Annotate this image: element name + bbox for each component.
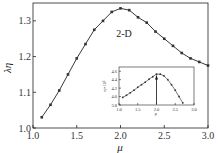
data-point [172,45,175,48]
x-tick-label: 1.0 [116,107,122,112]
data-point [133,89,135,91]
data-point [167,79,169,81]
data-point [174,89,176,91]
data-point [152,76,154,78]
data-point [154,30,157,33]
x-axis-label: μ [116,141,123,153]
inset-y-axis-label: η×10³ [102,80,107,91]
data-point [198,61,201,64]
y-tick-label: 1.3 [19,15,32,26]
x-tick-label: 2.5 [172,107,178,112]
y-tick-label: 4.2 [111,86,117,91]
y-axis-label: λη [1,63,13,74]
chart: 1.01.52.02.53.01.01.11.21.32-Dμλη1.01.52… [0,0,218,153]
y-tick-label: 4.0 [111,94,117,99]
data-point [144,81,146,83]
data-point [128,9,131,12]
data-point [49,103,52,106]
data-point [84,43,87,46]
data-point [207,64,210,67]
data-point [137,86,139,88]
x-tick-label: 2.5 [158,130,171,141]
data-point [102,20,105,23]
data-point [178,96,180,98]
data-point [171,84,173,86]
y-tick-label: 4.4 [111,77,117,82]
data-point [129,92,131,94]
data-point [122,97,124,99]
data-point [159,73,161,75]
y-tick-label: 1.2 [19,51,32,62]
data-point [137,16,140,19]
data-point [67,73,70,76]
x-tick-label: 1.5 [135,107,141,112]
annotation-label: 2-D [116,28,132,39]
x-tick-label: 3.0 [202,130,215,141]
y-tick-label: 1.1 [19,87,32,98]
y-tick-label: 4.6 [111,69,117,74]
y-tick-label: 3.8 [111,103,117,108]
data-point [93,28,96,31]
data-point [119,7,122,10]
data-point [40,116,43,119]
data-point [141,84,143,86]
y-tick-label: 1.0 [19,123,32,134]
x-tick-label: 1.5 [71,130,84,141]
data-point [180,52,183,55]
data-point [75,57,78,60]
data-point [189,57,192,60]
data-point [145,21,148,24]
data-point [58,89,61,92]
data-point [126,94,128,96]
x-tick-label: 2.0 [114,130,127,141]
data-point [156,73,158,75]
data-point [163,75,165,77]
data-point [110,11,113,14]
x-tick-label: 3.0 [191,107,197,112]
data-point [163,37,166,40]
data-point [182,102,184,104]
data-point [148,78,150,80]
